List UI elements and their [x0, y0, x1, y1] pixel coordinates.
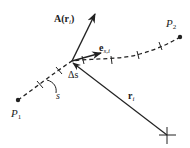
line-integral-diagram: A(ri) es,i ri Δs s P1 P2 [0, 0, 190, 148]
vector-field-label: A(ri) [54, 13, 74, 26]
position-vector-arrow [73, 63, 167, 135]
segment-label: Δs [68, 69, 78, 80]
position-vector-label: ri [128, 90, 134, 103]
vector-field-arrow [72, 14, 95, 61]
diagram-canvas: A(ri) es,i ri Δs s P1 P2 [0, 0, 190, 148]
unit-tangent-arrow [72, 53, 101, 61]
arc-length-label: s [56, 90, 60, 101]
end-point-label: P2 [165, 17, 177, 31]
arc-length-indicator [47, 80, 56, 93]
start-point-label: P1 [10, 107, 22, 121]
end-point-dot [178, 35, 182, 39]
start-point-dot [16, 98, 20, 102]
origin-crosshair-icon [159, 127, 176, 144]
